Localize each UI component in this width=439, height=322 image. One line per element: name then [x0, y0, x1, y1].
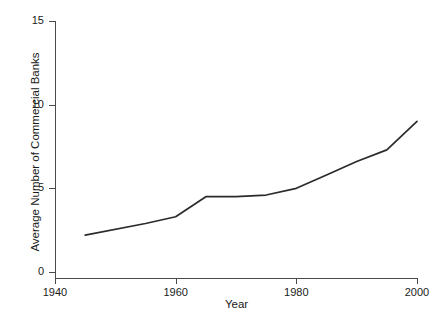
line-chart: 051015 1940196019802000 Average Number o… [0, 0, 439, 322]
plot-area [0, 0, 439, 322]
data-series-line [85, 121, 417, 235]
